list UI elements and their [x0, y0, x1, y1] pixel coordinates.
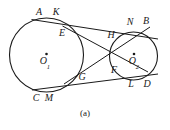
geometry-figure: A K N B E H F G C M L D O1 O2 (a)	[0, 0, 170, 130]
point-label-G: G	[78, 72, 85, 82]
center-label-O2-subscript: 2	[136, 62, 139, 69]
point-label-F: F	[111, 65, 117, 75]
center-label-O1: O1	[40, 56, 50, 69]
point-label-D: D	[143, 79, 150, 89]
point-label-H: H	[107, 30, 114, 40]
point-label-M: M	[45, 93, 53, 103]
point-label-L: L	[128, 79, 134, 89]
point-label-N: N	[127, 17, 134, 27]
figure-caption: (a)	[0, 108, 170, 118]
point-label-K: K	[53, 7, 60, 17]
point-label-C: C	[33, 93, 40, 103]
center-label-O1-subscript: 1	[47, 62, 50, 69]
point-label-A: A	[36, 7, 42, 17]
upper-external-tangent-line	[32, 20, 159, 40]
center-label-O2: O2	[129, 56, 139, 69]
point-label-B: B	[143, 16, 149, 26]
point-label-E: E	[59, 28, 65, 38]
lower-external-tangent-line	[32, 74, 158, 90]
